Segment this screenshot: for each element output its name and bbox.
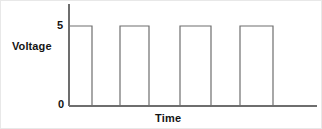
voltage-vs-time-square-wave-figure: Voltage Time 5 0 xyxy=(0,0,322,129)
square-wave-trace xyxy=(69,26,273,106)
y-tick-label-low: 0 xyxy=(58,99,64,110)
y-axis-title: Voltage xyxy=(12,41,52,52)
y-tick-label-high: 5 xyxy=(57,20,63,31)
x-axis-title: Time xyxy=(155,113,181,124)
waveform-plot xyxy=(1,1,322,129)
